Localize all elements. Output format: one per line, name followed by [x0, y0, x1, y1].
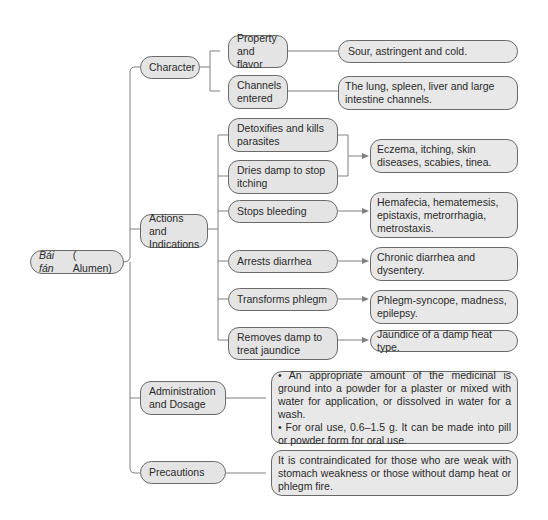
arrow-head: [362, 337, 369, 343]
branch-actions-and-indications: Actions and Indications: [140, 214, 208, 248]
node-dries-damp: Dries damp to stop itching: [228, 160, 338, 194]
detail-channels-entered: The lung, spleen, liver and large intest…: [338, 76, 518, 110]
dosage-bullet: • An appropriate amount of the medicinal…: [278, 369, 511, 421]
detail-property-and-flavor: Sour, astringent and cold.: [338, 40, 518, 63]
detail-eczema: Eczema, itching, skin diseases, scabies,…: [370, 139, 518, 173]
node-channels-entered: Channels entered: [228, 75, 288, 109]
character-connector: [200, 51, 220, 91]
root-connector: [124, 67, 140, 262]
detail-transforms-phlegm: Phlegm-syncope, madness, epilepsy.: [370, 290, 518, 324]
arrow-head: [362, 208, 369, 214]
dosage-bullet: • For oral use, 0.6–1.5 g. It can be mad…: [278, 421, 511, 447]
node-detoxifies: Detoxifies and kills parasites: [228, 118, 338, 152]
actions-connector: [208, 135, 228, 340]
detail-removes-damp: Jaundice of a damp heat type.: [370, 330, 518, 352]
detox-connector: [338, 135, 362, 176]
arrow-connector: [338, 211, 364, 340]
branch-character: Character: [140, 56, 200, 79]
arrow-head: [362, 296, 369, 302]
arrow-head: [362, 258, 369, 264]
root-label: ( Alumen): [73, 249, 115, 275]
detail-arrests-diarrhea: Chronic diarrhea and dysentery.: [370, 247, 518, 281]
node-transforms-phlegm: Transforms phlegm: [228, 288, 338, 311]
node-removes-damp: Removes damp to treat jaundice: [228, 327, 338, 360]
detail-stops-bleeding: Hemafecia, hematemesis, epistaxis, metro…: [370, 192, 518, 238]
node-arrests-diarrhea: Arrests diarrhea: [228, 250, 338, 273]
branch-precautions: Precautions: [140, 461, 226, 484]
node-stops-bleeding: Stops bleeding: [228, 200, 338, 223]
node-property-and-flavor: Property and flavor: [228, 35, 288, 68]
root-italic-name: Bái fán: [39, 249, 70, 275]
root-connector: [130, 262, 140, 473]
root-node: Bái fán ( Alumen): [30, 250, 124, 274]
branch-administration-and-dosage: Administration and Dosage: [140, 381, 226, 415]
detail-precautions: It is contraindicated for those who are …: [271, 450, 518, 496]
detail-administration-and-dosage: • An appropriate amount of the medicinal…: [271, 371, 518, 444]
arrow-head: [362, 153, 369, 159]
